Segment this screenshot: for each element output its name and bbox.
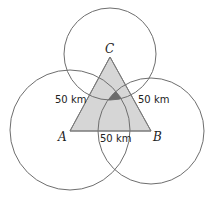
vertex-label-a: A: [57, 130, 67, 144]
distance-label-ac: 50 km: [55, 94, 86, 105]
vertex-label-c: C: [105, 42, 114, 56]
distance-label-bc: 50 km: [138, 94, 169, 105]
vertex-label-b: B: [152, 130, 162, 144]
triangle-circles-diagram: C A B 50 km 50 km 50 km: [0, 0, 210, 198]
distance-label-ab: 50 km: [100, 133, 131, 144]
